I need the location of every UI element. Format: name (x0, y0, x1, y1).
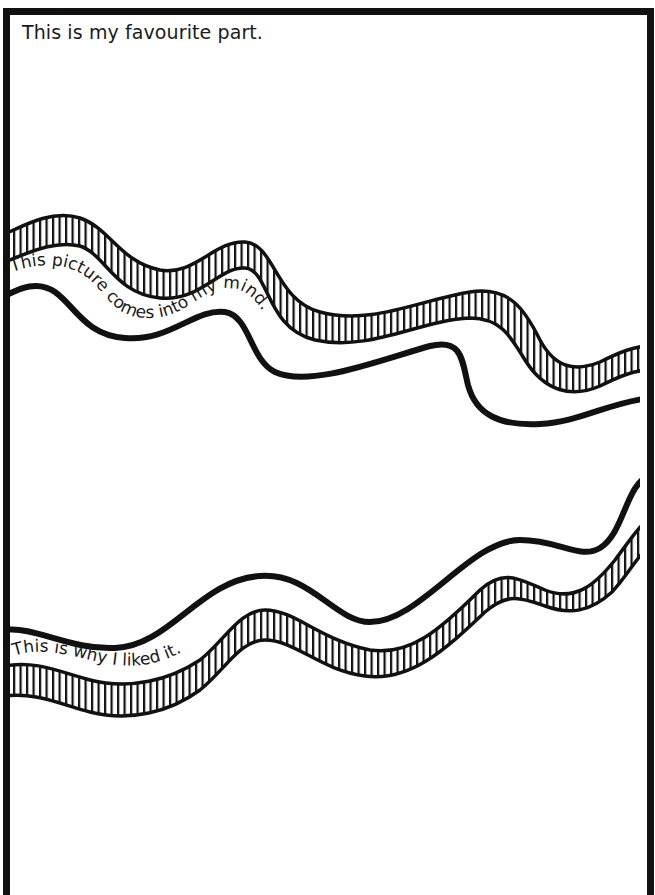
bottom-ribbon-solid-line (5, 475, 650, 648)
top-ribbon-solid-line (5, 286, 650, 424)
top-ribbon-hatched-band (5, 215, 650, 391)
